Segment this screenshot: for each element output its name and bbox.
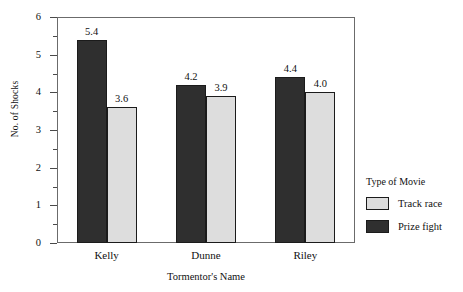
bar-value-label: 4.2 [168, 71, 214, 82]
y-tick-label: 3 [25, 125, 41, 136]
bar-riley-track-race [305, 92, 335, 243]
bar-riley-prize-fight [275, 77, 305, 243]
y-tick-label: 6 [25, 12, 41, 23]
x-tick-label-kelly: Kelly [62, 249, 152, 261]
bars-layer [57, 17, 355, 243]
y-tick-label: 0 [25, 238, 41, 249]
bar-value-label: 4.4 [267, 63, 313, 74]
y-tick-major [50, 55, 57, 56]
bar-kelly-track-race [107, 107, 137, 243]
y-tick-label: 2 [25, 163, 41, 174]
x-tick-label-riley: Riley [260, 249, 350, 261]
y-tick-major [50, 243, 57, 244]
bar-value-label: 3.6 [99, 93, 145, 104]
bar-chart-figure: No. of Shocks 0123456 KellyDunneRiley To… [0, 0, 463, 292]
bar-dunne-track-race [206, 96, 236, 243]
legend: Type of Movie Track racePrize fight [366, 176, 462, 243]
legend-entry-track-race: Track race [366, 197, 462, 210]
legend-label: Prize fight [398, 221, 442, 233]
x-tick-label-dunne: Dunne [161, 249, 251, 261]
y-tick-major [50, 17, 57, 18]
y-tick-label: 5 [25, 50, 41, 61]
bar-value-label: 4.0 [297, 78, 343, 89]
y-tick-major [50, 130, 57, 131]
bar-kelly-prize-fight [77, 40, 107, 243]
y-tick-major [50, 168, 57, 169]
y-tick-major [50, 92, 57, 93]
legend-label: Track race [398, 198, 442, 210]
legend-swatch-light [366, 197, 389, 210]
y-tick-label: 4 [25, 87, 41, 98]
legend-title: Type of Movie [366, 176, 462, 188]
legend-swatch-dark [366, 220, 389, 233]
legend-entries: Track racePrize fight [366, 197, 462, 233]
y-tick-label: 1 [25, 200, 41, 211]
x-axis-title: Tormentor's Name [57, 271, 355, 282]
bar-value-label: 3.9 [198, 82, 244, 93]
bar-value-label: 5.4 [69, 26, 115, 37]
y-axis-ticks: 0123456 [0, 0, 57, 292]
y-tick-major [50, 205, 57, 206]
bar-dunne-prize-fight [176, 85, 206, 243]
legend-entry-prize-fight: Prize fight [366, 220, 462, 233]
